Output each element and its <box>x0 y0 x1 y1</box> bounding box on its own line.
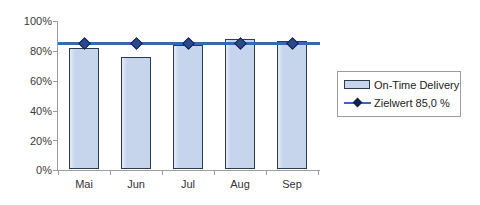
y-tick-label: 60% <box>6 76 52 87</box>
x-tick-mark <box>110 171 111 175</box>
chart-container: 100% 80% 60% 40% 20% 0% Mai <box>0 0 480 205</box>
x-axis-label-sep: Sep <box>266 178 318 190</box>
y-tick-label: 100% <box>6 16 52 27</box>
x-tick-mark <box>58 171 59 175</box>
x-axis-label-aug: Aug <box>214 178 266 190</box>
bar-jun <box>121 57 151 169</box>
x-tick-mark <box>318 171 319 175</box>
legend-label: On-Time Delivery <box>374 79 459 91</box>
x-axis-label-jul: Jul <box>162 178 214 190</box>
x-axis-label-jun: Jun <box>110 178 162 190</box>
legend-bar-swatch-icon <box>344 79 371 90</box>
legend-line-marker-icon <box>344 97 371 108</box>
y-tick-mark <box>53 170 57 171</box>
y-tick-label: 0% <box>6 165 52 176</box>
x-tick-mark <box>162 171 163 175</box>
bar-mai <box>69 48 99 169</box>
x-axis: Mai Jun Jul Aug Sep <box>57 178 322 194</box>
x-tick-mark <box>214 171 215 175</box>
bar-highlight <box>70 49 75 168</box>
y-axis: 100% 80% 60% 40% 20% 0% <box>0 0 52 205</box>
y-tick-mark <box>53 140 57 141</box>
chart-legend: On-Time Delivery Zielwert 85,0 % <box>337 71 461 117</box>
x-tick-mark <box>266 171 267 175</box>
bar-highlight <box>278 42 283 168</box>
bar-highlight <box>122 58 127 168</box>
y-tick-mark <box>53 81 57 82</box>
x-axis-label-mai: Mai <box>58 178 110 190</box>
bar-sep <box>277 41 307 169</box>
legend-item-on-time-delivery: On-Time Delivery <box>344 77 454 92</box>
bar-highlight <box>226 40 231 168</box>
y-tick-label: 80% <box>6 46 52 57</box>
y-tick-mark <box>53 21 57 22</box>
bar-jul <box>173 45 203 169</box>
bar-aug <box>225 39 255 169</box>
legend-item-zielwert: Zielwert 85,0 % <box>344 95 454 110</box>
target-marker-jun <box>130 37 143 50</box>
y-tick-label: 40% <box>6 106 52 117</box>
y-tick-label: 20% <box>6 136 52 147</box>
y-tick-mark <box>53 51 57 52</box>
bar-highlight <box>174 46 179 168</box>
legend-label: Zielwert 85,0 % <box>374 97 450 109</box>
x-axis-line <box>57 170 320 171</box>
y-tick-mark <box>53 111 57 112</box>
plot-area <box>57 21 319 170</box>
